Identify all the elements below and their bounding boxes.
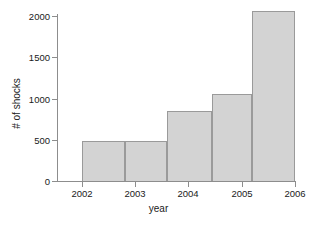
x-tick-2006 [295,182,296,187]
y-tick-label-2000: 2000 [29,11,50,22]
y-tick-2000 [52,16,57,17]
bar-bin-5 [252,11,295,181]
bar-bin-3 [167,111,212,181]
y-tick-label-1000: 1000 [29,94,50,105]
bar-bin-4 [212,94,252,181]
bar-bin-2 [125,141,168,181]
x-tick-2003 [135,182,136,187]
y-tick-label-0: 0 [45,176,50,187]
x-tick-label-2004: 2004 [177,188,198,199]
plot-area [82,16,295,181]
y-tick-label-500: 500 [34,135,50,146]
y-tick-500 [52,140,57,141]
y-tick-1500 [52,57,57,58]
x-tick-2005 [242,182,243,187]
bar-bin-1 [82,141,125,181]
y-axis-title: # of shocks [11,64,22,144]
x-tick-label-2002: 2002 [71,188,92,199]
y-tick-1000 [52,99,57,100]
y-tick-label-1500: 1500 [29,52,50,63]
x-tick-2002 [82,182,83,187]
x-tick-label-2005: 2005 [231,188,252,199]
x-tick-label-2006: 2006 [284,188,305,199]
y-tick-0 [52,181,57,182]
x-axis-line [57,181,296,182]
x-axis-title: year [0,203,317,214]
x-tick-label-2003: 2003 [124,188,145,199]
y-axis-line [57,14,58,182]
bar-chart: 2000 1500 1000 500 0 2002 2003 2004 2005… [0,0,317,226]
x-tick-2004 [188,182,189,187]
